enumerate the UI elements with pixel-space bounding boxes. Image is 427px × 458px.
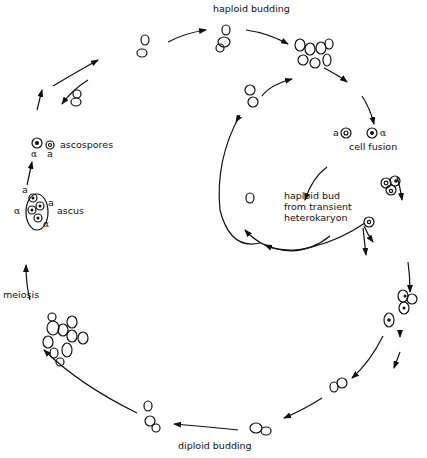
- diploid-cluster-cells: [43, 313, 88, 366]
- haploid-bud-label-line2: from transient: [284, 201, 352, 212]
- alpha-label-ascus-left: α: [14, 206, 20, 216]
- haploid-bud-label-line3: heterokaryon: [284, 212, 347, 223]
- ascospores-group: α a ascospores: [31, 138, 113, 159]
- zygote-cells: [384, 290, 417, 327]
- outer-cycle-arrows: [26, 30, 410, 430]
- ascospores-label: ascospores: [60, 139, 113, 150]
- haploid-bud-label-line1: haploid bud: [284, 190, 340, 201]
- a-label-spore: a: [47, 148, 53, 159]
- alpha-label-ascus-bottom: α: [43, 219, 49, 229]
- alpha-label-fusion: α: [380, 128, 386, 138]
- diploid-budding-label: diploid budding: [178, 440, 252, 451]
- alpha-label-spore: α: [31, 149, 37, 159]
- cell-fusion-group: a α cell fusion: [333, 127, 400, 195]
- ascus-group: a α a α ascus: [14, 184, 84, 230]
- diploid-budding-cells: diploid budding: [144, 378, 347, 451]
- meiosis-label: meiosis: [3, 289, 39, 300]
- a-label-ascus-right: a: [48, 197, 54, 208]
- yeast-life-cycle-diagram: α a ascospores a α a α ascus meiosis: [0, 0, 427, 458]
- haploid-budding-cells: [71, 25, 333, 106]
- cell-fusion-label: cell fusion: [349, 141, 397, 152]
- haploid-budding-label: haploid budding: [213, 3, 290, 14]
- inner-cycle-arrows: [219, 79, 373, 255]
- a-label-fusion: a: [333, 127, 339, 138]
- ascus-label: ascus: [57, 205, 84, 216]
- heterokaryon-bud-group: haploid bud from transient heterokaryon: [245, 85, 374, 227]
- a-label-ascus-top: a: [22, 184, 28, 195]
